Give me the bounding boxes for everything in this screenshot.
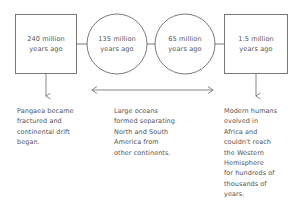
- diagram-canvas: 240 million years ago 135 million years …: [0, 0, 302, 224]
- node-shape-circle-65m: [155, 14, 215, 74]
- description-pangaea: Pangaea became fractured and continental…: [17, 106, 97, 148]
- description-humans: Modern humans evolved in Africa and coul…: [224, 106, 298, 200]
- node-shape-rect-1-5m: [225, 15, 288, 74]
- node-shape-circle-135m: [87, 14, 147, 74]
- node-shape-rect-240m: [16, 15, 77, 74]
- description-oceans: Large oceans formed separating North and…: [114, 106, 196, 158]
